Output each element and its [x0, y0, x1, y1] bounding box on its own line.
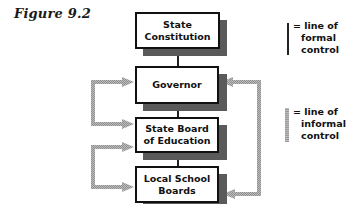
box-label: Local School Boards — [144, 173, 211, 197]
box-label: State Constitution — [144, 19, 210, 43]
box-governor: Governor — [135, 66, 219, 104]
legend-formal-label: = line of formal control — [293, 20, 339, 56]
legend-formal-text-1: = line of — [293, 20, 339, 32]
arrowhead-icon — [122, 182, 134, 192]
box-state-board-of-education: State Board of Education — [135, 117, 219, 153]
legend-informal-text-3: control — [293, 130, 346, 142]
box-label: Governor — [152, 79, 202, 91]
arrowhead-icon — [122, 77, 134, 87]
informal-bracket-left-upper — [93, 77, 134, 129]
legend-informal-label: = line of informal control — [293, 106, 346, 142]
arrowhead-icon — [122, 142, 134, 152]
box-label: State Board of Education — [143, 123, 210, 147]
legend-formal-line-swatch — [287, 23, 289, 55]
legend-informal-text-2: informal — [293, 118, 346, 130]
legend-formal-text-2: formal — [293, 32, 339, 44]
informal-bracket-left-lower — [93, 142, 134, 192]
legend-informal-line-swatch — [285, 108, 289, 142]
legend-formal-text-3: control — [293, 44, 339, 56]
arrowhead-icon — [122, 119, 134, 129]
legend-informal-text-1: = line of — [293, 106, 346, 118]
box-state-constitution: State Constitution — [135, 12, 220, 49]
box-local-school-boards: Local School Boards — [135, 166, 219, 203]
